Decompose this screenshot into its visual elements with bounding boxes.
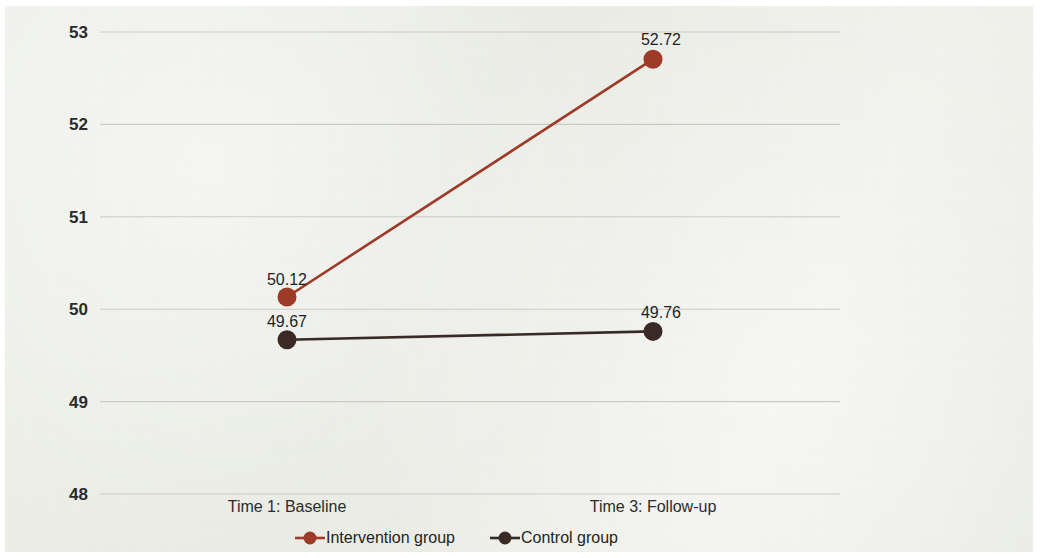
intervention-label-t3: 52.72: [641, 31, 681, 48]
intervention-label-t1: 50.12: [267, 271, 307, 288]
y-tick-label-50: 50: [69, 300, 88, 319]
control-line: [287, 331, 653, 339]
control-label-t1: 49.67: [267, 313, 307, 330]
legend-marker-control: [499, 532, 512, 545]
control-point-t1: [278, 330, 297, 349]
y-tick-label-52: 52: [69, 115, 88, 134]
control-label-t3: 49.76: [641, 304, 681, 321]
legend-item-control-group[interactable]: Control group: [490, 529, 618, 546]
line-chart-plot: 53 52 51 50 49 48 50.12 52.72 49.67 49.7…: [0, 0, 1040, 558]
y-tick-label-51: 51: [69, 208, 88, 227]
legend-label-intervention: Intervention group: [326, 529, 455, 546]
gridlines: [100, 32, 840, 494]
x-axis-tick-labels: Time 1: Baseline Time 3: Follow-up: [228, 498, 717, 515]
x-tick-label-time3: Time 3: Follow-up: [590, 498, 717, 515]
legend-marker-intervention: [304, 532, 317, 545]
legend-item-intervention-group[interactable]: Intervention group: [295, 529, 455, 546]
intervention-point-t3: [644, 50, 663, 69]
y-axis-tick-labels: 53 52 51 50 49 48: [69, 23, 88, 504]
intervention-line: [287, 59, 653, 297]
control-point-t3: [644, 322, 663, 341]
intervention-point-t1: [278, 288, 297, 307]
chart-figure: 53 52 51 50 49 48 50.12 52.72 49.67 49.7…: [0, 0, 1040, 558]
y-tick-label-48: 48: [69, 485, 88, 504]
series-control-group: 49.67 49.76: [267, 304, 681, 349]
y-tick-label-49: 49: [69, 393, 88, 412]
chart-legend: Intervention group Control group: [295, 529, 618, 546]
y-tick-label-53: 53: [69, 23, 88, 42]
series-intervention-group: 50.12 52.72: [267, 31, 681, 307]
legend-label-control: Control group: [521, 529, 618, 546]
x-tick-label-time1: Time 1: Baseline: [228, 498, 347, 515]
